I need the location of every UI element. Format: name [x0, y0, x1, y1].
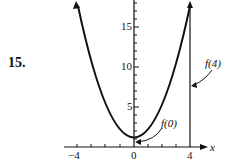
- f4-label: f(4): [205, 57, 221, 69]
- x-axis-label: x: [210, 141, 215, 153]
- f4-pointer: [194, 70, 212, 85]
- ytick-15: 15: [121, 20, 132, 32]
- xtick-0: 0: [131, 149, 137, 161]
- parabola-chart: [0, 0, 229, 162]
- ytick-10: 10: [121, 60, 132, 72]
- xtick-neg4: −4: [68, 149, 80, 161]
- f0-label: f(0): [161, 117, 177, 129]
- ytick-5: 5: [127, 100, 133, 112]
- x-axis-arrow-icon: [200, 144, 208, 150]
- xtick-4: 4: [187, 149, 193, 161]
- arrow-up-left-icon: [73, 1, 80, 9]
- y-ticks: [134, 3, 139, 139]
